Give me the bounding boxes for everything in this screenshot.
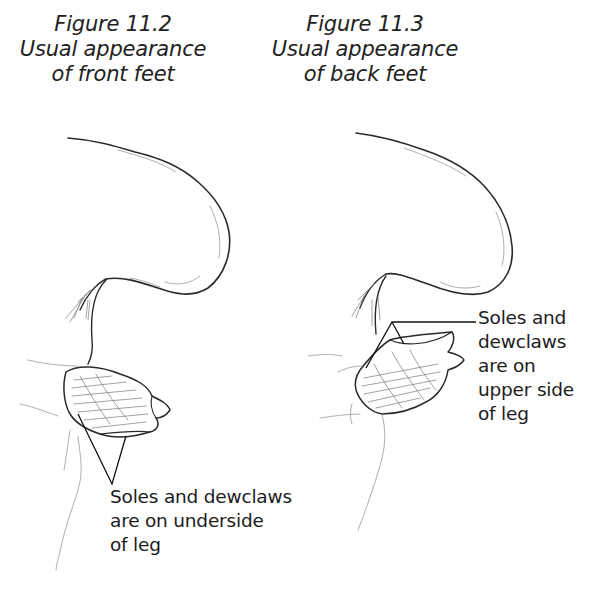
figure-11-2-caption: Figure 11.2 Usual appearance of front fe… (18, 12, 208, 87)
figure-11-3-title-line1: Usual appearance (270, 37, 460, 62)
front-callout-line2: are on underside (110, 509, 292, 533)
back-callout-line5: of leg (478, 402, 574, 426)
back-callout-line1: Soles and (478, 306, 574, 330)
figure-11-2-title-line2: of front feet (18, 62, 208, 87)
figure-11-3-caption: Figure 11.3 Usual appearance of back fee… (270, 12, 460, 87)
back-callout-line4: upper side (478, 378, 574, 402)
front-callout-line3: of leg (110, 533, 292, 557)
figure-11-3-number: Figure 11.3 (270, 12, 460, 37)
figure-11-2-title-line1: Usual appearance (18, 37, 208, 62)
figure-11-3-title-line2: of back feet (270, 62, 460, 87)
figure-11-2-number: Figure 11.2 (18, 12, 208, 37)
back-callout-line3: are on (478, 354, 574, 378)
back-feet-callout-label: Soles and dewclaws are on upper side of … (478, 306, 574, 426)
front-callout-line1: Soles and dewclaws (110, 485, 292, 509)
front-feet-callout-label: Soles and dewclaws are on underside of l… (110, 485, 292, 557)
illustration-canvas (0, 0, 589, 599)
back-callout-line2: dewclaws (478, 330, 574, 354)
